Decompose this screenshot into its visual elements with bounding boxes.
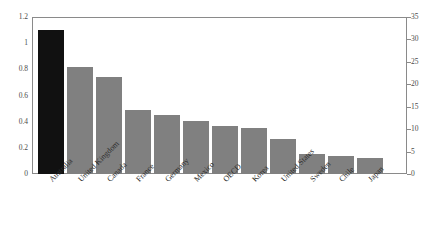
y-axis-right-tick-label: 30 [411, 35, 419, 43]
bar-slot [355, 17, 384, 174]
y-axis-right-tick-mark [407, 174, 411, 175]
bar-slot [268, 17, 297, 174]
y-axis-right-tick-label: 5 [411, 148, 415, 156]
y-axis-right-tick-mark [407, 17, 411, 18]
bar-slot [123, 17, 152, 174]
y-axis-left: 00.20.40.60.811.2 [0, 0, 28, 241]
x-axis-label-slot: United States [268, 176, 297, 241]
bar-slot [239, 17, 268, 174]
bar [67, 67, 93, 174]
y-axis-right-tick-mark [407, 39, 411, 40]
bar-slot [210, 17, 239, 174]
y-axis-right-tick-label: 20 [411, 80, 419, 88]
x-axis-label-slot: France [123, 176, 152, 241]
x-axis-label-slot: Japan [355, 176, 384, 241]
x-axis-label-slot: Germany [152, 176, 181, 241]
y-axis-left-tick-label: 0 [24, 170, 28, 178]
x-axis-label-slot: OECD [210, 176, 239, 241]
y-axis-right-tick-mark [407, 152, 411, 153]
y-axis-right-tick-mark [407, 84, 411, 85]
y-axis-left-tick-label: 0.8 [19, 65, 28, 73]
y-axis-left-tick-label: 0.6 [19, 92, 28, 100]
y-axis-right-tick-mark [407, 62, 411, 63]
y-axis-right-tick-mark [407, 129, 411, 130]
bar-slot [65, 17, 94, 174]
y-axis-right-tick-mark [407, 107, 411, 108]
bar-slot [326, 17, 355, 174]
bar-slot [36, 17, 65, 174]
y-axis-right-tick-label: 25 [411, 58, 419, 66]
x-axis-label-slot: Korea [239, 176, 268, 241]
y-axis-left-tick-label: 0.4 [19, 118, 28, 126]
y-axis-left-tick-label: 1 [24, 39, 28, 47]
y-axis-right-tick-label: 35 [411, 13, 419, 21]
x-axis-label-slot: Chile [326, 176, 355, 241]
y-axis-right-tick-label: 15 [411, 103, 419, 111]
y-axis-left-tick-label: 1.2 [19, 13, 28, 21]
y-axis-left-tick-label: 0.2 [19, 144, 28, 152]
bar-chart: 00.20.40.60.811.2 05101520253035 Austral… [0, 0, 438, 241]
x-axis-label-slot: Mexico [181, 176, 210, 241]
y-axis-right-tick-label: 0 [411, 170, 415, 178]
x-axis-label-slot: Sweden [297, 176, 326, 241]
x-axis-label-slot: Australia [36, 176, 65, 241]
x-axis-label-slot: Canada [94, 176, 123, 241]
x-axis-label-slot: United Kingdom [65, 176, 94, 241]
y-axis-right-tick-label: 10 [411, 125, 419, 133]
bar-slot [181, 17, 210, 174]
x-axis-labels: AustraliaUnited KingdomCanadaFranceGerma… [33, 176, 406, 241]
y-axis-right: 05101520253035 [411, 0, 435, 241]
bar-series [33, 17, 406, 174]
bar [38, 30, 64, 174]
bar-slot [152, 17, 181, 174]
